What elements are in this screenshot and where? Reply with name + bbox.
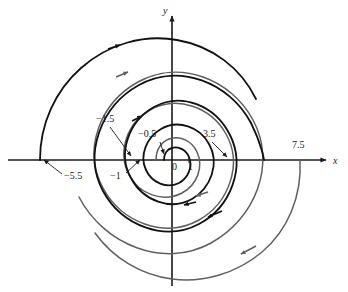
annotation-7-5: 7.5 xyxy=(292,139,305,150)
y-axis-label: y xyxy=(163,5,167,16)
tick-label-1: 1 xyxy=(188,161,193,172)
leader-minus1-5 xyxy=(110,127,131,156)
x-axis-label: x xyxy=(333,155,337,166)
black-arrow-top xyxy=(108,45,120,49)
gray-arrow-outer-bottom xyxy=(241,246,256,254)
annotation-minus-1: −1 xyxy=(110,170,121,181)
gray-spiral-curve xyxy=(79,72,263,253)
annotation-3-5: 3.5 xyxy=(203,128,216,139)
leader-minus5-5 xyxy=(44,160,62,174)
leader-3-5 xyxy=(212,142,227,157)
figure-canvas: 0 1 −5.5 −1.5 −1 −0.5 3.5 7.5 x y xyxy=(0,0,348,292)
annotation-minus-5-5: −5.5 xyxy=(64,170,82,181)
annotation-minus-0-5: −0.5 xyxy=(138,128,156,139)
leader-minus1 xyxy=(126,160,140,173)
annotation-minus-1-5: −1.5 xyxy=(96,113,114,124)
tick-label-0: 0 xyxy=(172,161,177,172)
gray-arrow-top xyxy=(116,72,128,77)
